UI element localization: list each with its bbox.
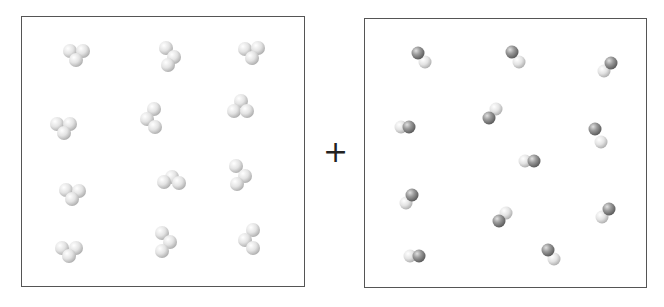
light-atom	[57, 126, 71, 140]
dark-atom	[603, 203, 616, 216]
dark-atom	[483, 112, 496, 125]
triatomic-molecule	[227, 94, 254, 118]
triatomic-molecule	[238, 223, 260, 255]
diatomic-molecule	[598, 57, 618, 78]
dark-atom	[506, 46, 519, 59]
diatomic-molecule	[483, 103, 503, 125]
light-atom	[62, 249, 76, 263]
triatomic-molecule	[63, 44, 90, 67]
triatomic-molecule	[159, 41, 181, 72]
light-atom	[172, 176, 186, 190]
diatomic-molecule	[542, 244, 561, 266]
light-atom	[148, 120, 162, 134]
dark-atom	[589, 123, 602, 136]
diatomic-molecule	[519, 155, 541, 168]
light-atom	[65, 192, 79, 206]
dark-atom	[493, 215, 506, 228]
diatomic-molecule	[493, 207, 513, 228]
diatomic-molecule	[404, 250, 426, 263]
diatomic-molecule	[506, 46, 526, 69]
diatomic-molecule	[412, 47, 432, 69]
triatomic-molecule	[155, 226, 177, 258]
light-atom	[227, 104, 241, 118]
dark-atom	[412, 47, 425, 60]
diatomic-molecule	[589, 123, 608, 149]
light-atom	[245, 51, 259, 65]
dark-atom	[413, 250, 426, 263]
dark-atom	[403, 121, 416, 134]
diatomic-molecule	[596, 203, 616, 224]
dark-atom	[605, 57, 618, 70]
dark-atom	[406, 189, 419, 202]
triatomic-molecule	[238, 41, 265, 65]
light-atom	[230, 177, 244, 191]
light-atom	[246, 241, 260, 255]
triatomic-molecule	[55, 241, 83, 263]
diatomic-molecule	[400, 189, 419, 210]
dark-atom	[528, 155, 541, 168]
molecule-layer	[0, 0, 664, 307]
triatomic-molecule	[157, 170, 186, 190]
light-atom	[595, 136, 608, 149]
light-atom	[155, 244, 169, 258]
light-atom	[161, 58, 175, 72]
light-atom	[69, 53, 83, 67]
diatomic-molecule	[395, 121, 416, 134]
triatomic-molecule	[50, 117, 77, 140]
light-atom	[240, 104, 254, 118]
dark-atom	[542, 244, 555, 257]
triatomic-molecule	[59, 183, 86, 206]
light-atom	[157, 175, 171, 189]
triatomic-molecule	[140, 102, 162, 134]
triatomic-molecule	[229, 159, 252, 191]
